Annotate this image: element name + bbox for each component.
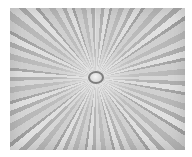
radial-burst-image <box>10 8 185 150</box>
center-ring <box>88 71 104 84</box>
